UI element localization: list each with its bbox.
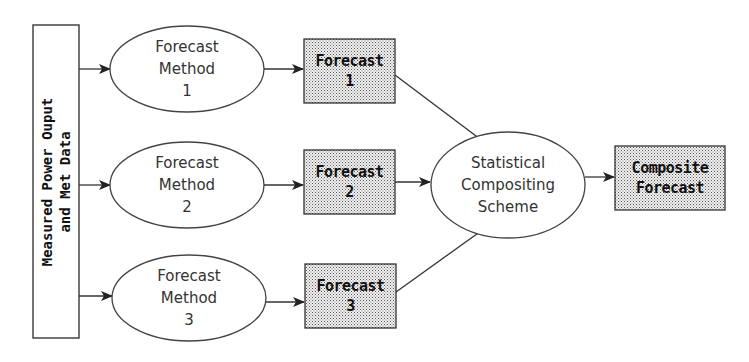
method-3-line3: 3 bbox=[184, 309, 194, 331]
forecast-3-line2: 3 bbox=[346, 296, 355, 316]
method-2-line3: 2 bbox=[182, 196, 192, 218]
method-2-label: Forecast Method 2 bbox=[110, 142, 264, 228]
method-2-line1: Forecast bbox=[155, 152, 218, 174]
method-3-line2: Method bbox=[161, 287, 217, 309]
output-line1: Composite bbox=[632, 158, 709, 178]
method-1-label: Forecast Method 1 bbox=[110, 26, 264, 112]
method-3-label: Forecast Method 3 bbox=[112, 255, 266, 341]
input-label-line1: Measured Power Ouput bbox=[38, 97, 56, 266]
compositor-label: Statistical Compositing Scheme bbox=[431, 132, 585, 238]
output-line2: Forecast bbox=[636, 178, 704, 198]
forecast-3-line1: Forecast bbox=[316, 276, 384, 296]
method-1-line1: Forecast bbox=[155, 36, 218, 58]
method-2-line2: Method bbox=[159, 174, 215, 196]
output-label: Composite Forecast bbox=[615, 146, 725, 210]
forecast-2-line2: 2 bbox=[345, 182, 354, 202]
method-1-line2: Method bbox=[159, 58, 215, 80]
method-1-line3: 1 bbox=[182, 80, 192, 102]
compositor-line2: Compositing bbox=[461, 174, 555, 196]
input-label: Measured Power Ouput and Met Data bbox=[33, 25, 79, 338]
compositor-line3: Scheme bbox=[478, 196, 538, 218]
forecast-2-label: Forecast 2 bbox=[304, 150, 395, 214]
forecast-1-label: Forecast 1 bbox=[304, 39, 395, 103]
method-3-line1: Forecast bbox=[157, 265, 220, 287]
forecast-1-line1: Forecast bbox=[315, 51, 383, 71]
forecast-1-line2: 1 bbox=[345, 71, 354, 91]
forecast-3-label: Forecast 3 bbox=[305, 264, 396, 328]
input-label-line2: and Met Data bbox=[56, 97, 74, 266]
forecast-2-line1: Forecast bbox=[315, 162, 383, 182]
compositor-line1: Statistical bbox=[471, 152, 545, 174]
